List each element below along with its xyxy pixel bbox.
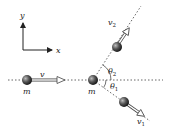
x-axis-label: x (56, 46, 61, 55)
lower-ball (119, 97, 129, 107)
theta1-label: θ1 (110, 82, 118, 92)
v2-label: v2 (108, 18, 116, 28)
incoming-velocity-label: v (40, 70, 45, 79)
upper-ball (112, 42, 122, 52)
reference-lines (8, 6, 163, 121)
axes: y x (19, 11, 61, 55)
collision-diagram: y x v m m v2 v1 θ2 θ1 (0, 0, 169, 128)
y-axis-label: y (19, 11, 25, 20)
incoming-mass-label: m (23, 87, 31, 96)
target-mass-label: m (88, 87, 96, 96)
v1-label: v1 (137, 117, 145, 127)
target-ball (88, 75, 98, 85)
theta2-label: θ2 (108, 67, 116, 77)
incoming-ball (22, 75, 32, 85)
incoming-velocity-arrow (31, 77, 65, 84)
theta1-arc (104, 80, 106, 88)
